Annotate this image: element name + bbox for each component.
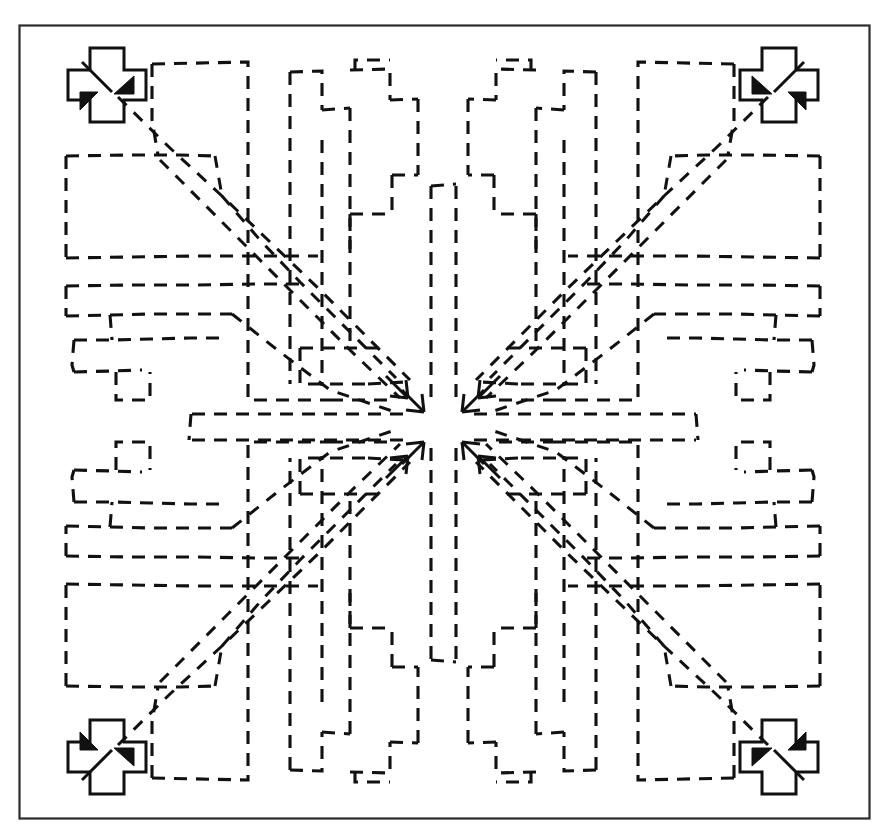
central-cross-vertical-lower (431, 448, 456, 662)
quadrant-leaf-upper-left (66, 60, 418, 412)
quadrant-leaf-upper-right (468, 60, 820, 412)
corner-marker-lower-right (740, 720, 818, 794)
center-arrowheads (386, 376, 500, 478)
corner-marker-upper-right (740, 48, 818, 122)
frame-border (20, 26, 870, 819)
central-cross-vertical-upper (431, 184, 456, 406)
quadrant-leaf-lower-left (66, 430, 418, 782)
central-cross-horizontal-right (474, 414, 698, 440)
figure-canvas: Dashed radial symmetry pattern Four-fold… (0, 0, 886, 837)
figure-root: Dashed radial symmetry pattern Four-fold… (0, 0, 886, 837)
corner-marker-lower-left (68, 720, 146, 794)
corner-marker-upper-left (68, 48, 146, 122)
quadrant-leaf-lower-right (468, 430, 820, 782)
central-cross-horizontal-left (189, 414, 412, 440)
